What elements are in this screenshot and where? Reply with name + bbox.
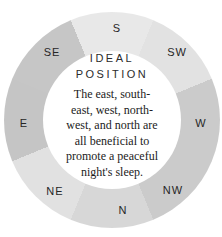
description-line: The east, south-: [45, 87, 179, 103]
description-line: west, and north are: [45, 118, 179, 134]
description-line: east, west, north-: [45, 103, 179, 119]
direction-label-south: S: [113, 22, 121, 34]
direction-label-northwest: NW: [163, 184, 183, 196]
description-line: all beneficial to: [45, 134, 179, 150]
ideal-position-title: IDEAL POSITION: [62, 50, 162, 82]
compass-diagram: S SW W NW N NE E SE IDEAL POSITION The e…: [0, 0, 222, 237]
description-line: promote a peaceful: [45, 149, 179, 165]
direction-label-east: E: [20, 117, 28, 129]
direction-label-northeast: NE: [46, 185, 63, 197]
direction-label-north: N: [119, 204, 128, 216]
direction-label-west: W: [195, 117, 206, 129]
description-line: night's sleep.: [45, 165, 179, 181]
center-text-block: IDEAL POSITION The east, south- east, we…: [45, 50, 179, 180]
description-text: The east, south- east, west, north- west…: [45, 87, 179, 180]
